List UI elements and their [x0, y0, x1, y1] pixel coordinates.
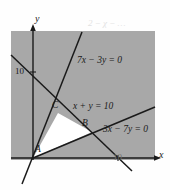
x-tick-label-10: 10: [113, 152, 122, 162]
y-axis-label: y: [35, 13, 39, 24]
vertex-label-b: B: [82, 118, 88, 128]
vertex-label-a: A: [35, 144, 41, 154]
equation-3x-7y-label: 3x − 7y = 0: [103, 124, 148, 134]
y-axis-arrow: [30, 24, 36, 31]
equation-7x-3y-label: 7x − 3y = 0: [77, 55, 122, 65]
graph-svg: [0, 0, 170, 190]
y-tick-label-10: 10: [15, 66, 24, 76]
equation-x-plus-y-label: x + y = 10: [73, 101, 113, 111]
x-axis-label: x: [159, 149, 163, 160]
vertex-label-c: C: [52, 100, 58, 110]
figure-canvas: 2 − χ − … y x 10 10 7x − 3y = 0 x + y = …: [0, 0, 170, 190]
